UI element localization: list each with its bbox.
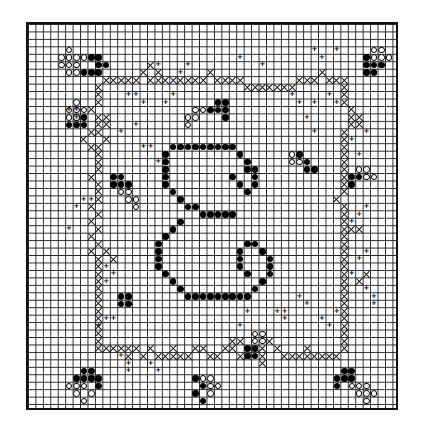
filled-stitch-icon bbox=[221, 143, 228, 150]
cross-stitch-icon bbox=[333, 76, 340, 83]
open-stitch-icon bbox=[88, 390, 95, 397]
tendril-mark-icon: + bbox=[102, 263, 109, 270]
open-stitch-icon bbox=[125, 196, 132, 203]
filled-stitch-icon bbox=[192, 143, 199, 150]
cross-stitch-chart: ++++++++++++++++++++++++++++++++++++++++… bbox=[26, 22, 398, 410]
open-stitch-icon bbox=[288, 158, 295, 165]
cross-stitch-icon bbox=[88, 203, 95, 210]
cross-stitch-icon bbox=[340, 211, 347, 218]
cross-stitch-icon bbox=[333, 352, 340, 359]
cross-stitch-icon bbox=[88, 128, 95, 135]
cross-stitch-icon bbox=[229, 76, 236, 83]
cross-stitch-icon bbox=[162, 76, 169, 83]
tendril-mark-icon: + bbox=[274, 308, 281, 315]
filled-stitch-icon bbox=[251, 240, 258, 247]
open-stitch-icon bbox=[259, 330, 266, 337]
cross-stitch-icon bbox=[340, 345, 347, 352]
open-stitch-icon bbox=[73, 61, 80, 68]
cross-stitch-icon bbox=[340, 285, 347, 292]
open-stitch-icon bbox=[296, 158, 303, 165]
filled-stitch-icon bbox=[154, 255, 161, 262]
cross-stitch-icon bbox=[95, 99, 102, 106]
filled-stitch-icon bbox=[378, 61, 385, 68]
filled-stitch-icon bbox=[95, 69, 102, 76]
open-stitch-icon bbox=[73, 382, 80, 389]
tendril-mark-icon: + bbox=[355, 211, 362, 218]
tendril-mark-icon: + bbox=[117, 128, 124, 135]
cross-stitch-icon bbox=[95, 293, 102, 300]
cross-stitch-icon bbox=[340, 203, 347, 210]
cross-stitch-icon bbox=[177, 76, 184, 83]
cross-stitch-icon bbox=[311, 352, 318, 359]
tendril-mark-icon: + bbox=[363, 128, 370, 135]
open-stitch-icon bbox=[73, 54, 80, 61]
filled-stitch-icon bbox=[117, 300, 124, 307]
cross-stitch-icon bbox=[95, 143, 102, 150]
filled-stitch-icon bbox=[162, 173, 169, 180]
filled-stitch-icon bbox=[177, 218, 184, 225]
cross-stitch-icon bbox=[132, 345, 139, 352]
filled-stitch-icon bbox=[236, 248, 243, 255]
tendril-mark-icon: + bbox=[288, 91, 295, 98]
cross-stitch-icon bbox=[340, 263, 347, 270]
cross-stitch-icon bbox=[244, 84, 251, 91]
filled-stitch-icon bbox=[229, 293, 236, 300]
filled-stitch-icon bbox=[229, 211, 236, 218]
open-stitch-icon bbox=[207, 390, 214, 397]
filled-stitch-icon bbox=[162, 270, 169, 277]
cross-stitch-icon bbox=[95, 128, 102, 135]
open-stitch-icon bbox=[199, 375, 206, 382]
open-stitch-icon bbox=[73, 390, 80, 397]
filled-stitch-icon bbox=[363, 61, 370, 68]
tendril-mark-icon: + bbox=[326, 91, 333, 98]
filled-stitch-icon bbox=[296, 151, 303, 158]
cross-stitch-icon bbox=[340, 330, 347, 337]
filled-stitch-icon bbox=[348, 375, 355, 382]
filled-stitch-icon bbox=[162, 166, 169, 173]
filled-stitch-icon bbox=[110, 173, 117, 180]
cross-stitch-icon bbox=[340, 136, 347, 143]
cross-stitch-icon bbox=[214, 352, 221, 359]
cross-stitch-icon bbox=[229, 337, 236, 344]
filled-stitch-icon bbox=[162, 151, 169, 158]
cross-stitch-icon bbox=[340, 166, 347, 173]
tendril-mark-icon: + bbox=[154, 158, 161, 165]
filled-stitch-icon bbox=[88, 69, 95, 76]
cross-stitch-icon bbox=[340, 255, 347, 262]
filled-stitch-icon bbox=[73, 375, 80, 382]
filled-stitch-icon bbox=[125, 300, 132, 307]
filled-stitch-icon bbox=[117, 173, 124, 180]
tendril-mark-icon: + bbox=[110, 270, 117, 277]
filled-stitch-icon bbox=[95, 375, 102, 382]
filled-stitch-icon bbox=[192, 375, 199, 382]
open-stitch-icon bbox=[192, 114, 199, 121]
filled-stitch-icon bbox=[192, 390, 199, 397]
cross-stitch-icon bbox=[192, 345, 199, 352]
open-stitch-icon bbox=[184, 114, 191, 121]
open-stitch-icon bbox=[80, 397, 87, 404]
cross-stitch-icon bbox=[355, 114, 362, 121]
tendril-mark-icon: + bbox=[65, 225, 72, 232]
cross-stitch-icon bbox=[363, 270, 370, 277]
cross-stitch-icon bbox=[340, 173, 347, 180]
filled-stitch-icon bbox=[244, 293, 251, 300]
cross-stitch-icon bbox=[340, 158, 347, 165]
tendril-mark-icon: + bbox=[80, 196, 87, 203]
filled-stitch-icon bbox=[259, 278, 266, 285]
open-stitch-icon bbox=[207, 375, 214, 382]
cross-stitch-icon bbox=[236, 337, 243, 344]
cross-stitch-icon bbox=[95, 263, 102, 270]
open-stitch-icon bbox=[132, 196, 139, 203]
filled-stitch-icon bbox=[348, 367, 355, 374]
cross-stitch-icon bbox=[95, 278, 102, 285]
filled-stitch-icon bbox=[244, 158, 251, 165]
tendril-mark-icon: + bbox=[147, 360, 154, 367]
cross-stitch-icon bbox=[95, 158, 102, 165]
cross-stitch-icon bbox=[95, 337, 102, 344]
filled-stitch-icon bbox=[244, 270, 251, 277]
open-stitch-icon bbox=[355, 382, 362, 389]
filled-stitch-icon bbox=[244, 166, 251, 173]
open-stitch-icon bbox=[125, 188, 132, 195]
filled-stitch-icon bbox=[80, 114, 87, 121]
filled-stitch-icon bbox=[169, 188, 176, 195]
